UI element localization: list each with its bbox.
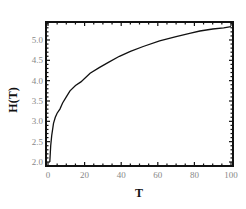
x-tick-label: 40 xyxy=(117,170,127,180)
line-chart: 020406080100 2.02.53.03.54.04.55.0 T H(T… xyxy=(0,0,246,209)
y-tick-label: 2.0 xyxy=(32,157,44,167)
x-tick-label: 100 xyxy=(224,170,238,180)
y-tick-label: 5.0 xyxy=(32,35,44,45)
y-tick-label: 2.5 xyxy=(32,137,44,147)
y-axis-label: H(T) xyxy=(6,87,20,112)
x-tick-label: 60 xyxy=(153,170,163,180)
x-tick-label: 80 xyxy=(190,170,200,180)
x-axis-label: T xyxy=(135,186,143,200)
plot-frame xyxy=(46,22,233,166)
x-axis-tick-labels: 020406080100 xyxy=(46,170,239,180)
y-tick-label: 3.0 xyxy=(32,116,44,126)
y-tick-label: 4.0 xyxy=(32,76,44,86)
x-tick-label: 20 xyxy=(80,170,90,180)
x-tick-label: 0 xyxy=(46,170,51,180)
y-tick-label: 3.5 xyxy=(32,96,44,106)
y-axis-tick-labels: 2.02.53.03.54.04.55.0 xyxy=(32,35,44,167)
plot-area xyxy=(46,22,233,166)
y-tick-label: 4.5 xyxy=(32,55,44,65)
